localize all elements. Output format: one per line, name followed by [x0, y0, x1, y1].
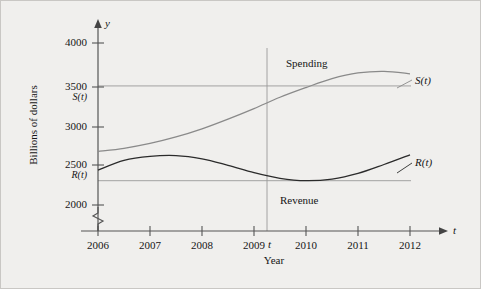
level-label-spending: S(t) — [47, 92, 87, 102]
x-tick-label-2006: 2006 — [78, 240, 118, 251]
revenue-annotation: Revenue — [280, 195, 318, 206]
x-axis-name: t — [453, 225, 456, 236]
revenue-curve — [98, 155, 410, 181]
chart-figure: 4000 3500 3000 2500 2000 S(t) R(t) 2006 … — [0, 0, 481, 289]
spending-curve — [98, 71, 410, 151]
x-tick-label-2011: 2011 — [338, 240, 378, 251]
x-tick-label-2012: 2012 — [390, 240, 430, 251]
spending-function-label: S(t) — [415, 75, 431, 86]
y-tick-label-4000: 4000 — [47, 37, 87, 48]
spending-annotation: Spending — [286, 58, 328, 69]
level-label-revenue: R(t) — [47, 170, 87, 180]
x-tick-label-2008: 2008 — [182, 240, 222, 251]
y-axis-title-wrapper: Billions of dollars — [23, 65, 41, 185]
y-tick-label-2000: 2000 — [47, 199, 87, 210]
x-axis-title: Year — [231, 255, 317, 266]
t-marker-label: t — [268, 239, 271, 250]
x-tick-label-2010: 2010 — [286, 240, 326, 251]
y-axis-arrow-icon — [94, 19, 102, 28]
revenue-label-leader — [397, 163, 412, 173]
x-axis-arrow-icon — [439, 227, 448, 235]
y-tick-label-3000: 3000 — [47, 121, 87, 132]
x-tick-label-2007: 2007 — [130, 240, 170, 251]
y-axis-name: y — [105, 18, 110, 29]
spending-label-leader — [397, 80, 412, 88]
revenue-function-label: R(t) — [415, 157, 432, 168]
y-axis-title: Billions of dollars — [27, 85, 39, 164]
